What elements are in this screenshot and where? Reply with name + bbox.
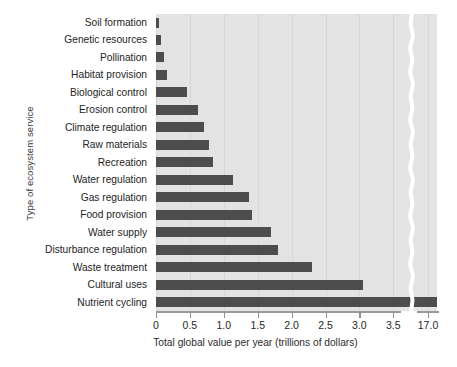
plot-area <box>156 14 437 311</box>
x-axis-tick-label: 1.5 <box>250 319 265 331</box>
bar <box>156 122 204 132</box>
x-axis-tick <box>190 312 191 318</box>
x-axis-tick-label: 2.5 <box>318 319 333 331</box>
category-label: Recreation <box>98 154 147 171</box>
category-label: Pollination <box>100 49 147 66</box>
category-label: Cultural uses <box>88 276 147 293</box>
x-axis-tick-label: 0.5 <box>183 319 198 331</box>
bar <box>156 192 249 202</box>
bar-row <box>156 224 437 241</box>
category-label: Nutrient cycling <box>77 294 147 311</box>
x-axis-tick <box>156 312 157 318</box>
category-label: Habitat provision <box>71 66 147 83</box>
bar <box>156 262 312 272</box>
category-label: Soil formation <box>85 14 147 31</box>
category-label: Waste treatment <box>73 259 147 276</box>
bar-row <box>156 136 437 153</box>
bar <box>156 175 233 185</box>
x-axis-tick <box>428 312 429 318</box>
bar-row <box>156 154 437 171</box>
category-label: Food provision <box>80 206 147 223</box>
bar-row <box>156 241 437 258</box>
x-axis-tick <box>393 312 394 318</box>
bar-row <box>156 84 437 101</box>
x-axis-tick <box>224 312 225 318</box>
x-axis-tick <box>292 312 293 318</box>
x-axis-tick-label: 3.0 <box>352 319 367 331</box>
bar <box>156 245 278 255</box>
bar-row <box>156 119 437 136</box>
x-axis-tick-label: 2.0 <box>284 319 299 331</box>
x-axis-tick-label: 1.0 <box>216 319 231 331</box>
bar-row <box>156 171 437 188</box>
bar-row <box>156 66 437 83</box>
bar <box>156 70 167 80</box>
x-axis-line-left <box>156 311 401 313</box>
category-label: Raw materials <box>82 136 147 153</box>
bar-row <box>156 49 437 66</box>
bar <box>156 87 187 97</box>
x-axis-tick <box>258 312 259 318</box>
x-axis-tick <box>359 312 360 318</box>
x-axis-tick <box>326 312 327 318</box>
bar <box>156 210 252 220</box>
bar-row <box>156 31 437 48</box>
bar-row <box>156 189 437 206</box>
bar-row <box>156 101 437 118</box>
bar-row <box>156 14 437 31</box>
category-label: Water supply <box>88 224 147 241</box>
bar <box>156 157 213 167</box>
bar-chart: Type of ecosystem service Soil formation… <box>0 0 457 367</box>
category-axis-labels: Soil formationGenetic resourcesPollinati… <box>0 14 152 311</box>
bar <box>156 35 161 45</box>
bar <box>156 140 209 150</box>
category-label: Genetic resources <box>64 31 147 48</box>
bar-row <box>156 294 437 311</box>
bar <box>156 105 198 115</box>
bar-row <box>156 206 437 223</box>
category-label: Climate regulation <box>65 119 147 136</box>
bar <box>156 52 164 62</box>
bar <box>156 227 271 237</box>
bar-row <box>156 276 437 293</box>
category-label: Erosion control <box>79 101 147 118</box>
bars-layer <box>156 14 437 311</box>
bar <box>156 18 159 28</box>
x-axis-tick-label: 0 <box>153 319 159 331</box>
x-axis-title: Total global value per year (trillions o… <box>0 337 457 348</box>
category-label: Water regulation <box>73 171 147 188</box>
x-axis-tick-label: 3.5 <box>386 319 401 331</box>
category-label: Biological control <box>70 84 147 101</box>
category-label: Gas regulation <box>81 189 147 206</box>
x-axis-tick-label: 17.0 <box>418 319 438 331</box>
bar-row <box>156 259 437 276</box>
category-label: Disturbance regulation <box>45 241 147 258</box>
bar <box>156 280 363 290</box>
bar <box>156 297 437 307</box>
